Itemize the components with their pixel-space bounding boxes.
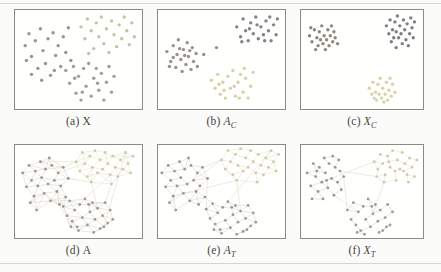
caption-subscript: C	[231, 121, 237, 130]
subfigure-b: (b)AC	[157, 9, 286, 133]
caption-prefix: (b)	[207, 115, 221, 127]
figure-row-top: (a)X (b)AC (c)XC	[14, 9, 424, 133]
caption-f: (f)XT	[348, 243, 375, 262]
subfigure-d: (d)A	[14, 144, 143, 262]
graph-svg-f	[301, 145, 423, 238]
caption-label: A	[224, 115, 231, 127]
caption-e: (e)AT	[207, 243, 235, 262]
caption-prefix: (e)	[207, 244, 220, 256]
caption-prefix: (d)	[66, 244, 80, 256]
caption-label: X	[364, 244, 371, 256]
scatter-plot-a	[14, 9, 143, 110]
caption-b: (b)AC	[207, 114, 237, 133]
graph-svg-e	[158, 145, 285, 238]
subfigure-e: (e)AT	[157, 144, 286, 262]
graph-plot-d	[14, 144, 143, 239]
caption-subscript: C	[371, 121, 377, 130]
graph-plot-e	[157, 144, 286, 239]
scatter-svg-b	[158, 10, 285, 109]
caption-prefix: (f)	[348, 244, 360, 256]
caption-label: X	[364, 115, 371, 127]
caption-prefix: (a)	[66, 115, 79, 127]
scatter-svg-a	[15, 10, 142, 109]
scatter-plot-c	[300, 9, 424, 110]
caption-a: (a)X	[66, 114, 91, 133]
caption-d: (d)A	[66, 243, 92, 262]
bottom-rule	[0, 263, 441, 264]
graph-plot-f	[300, 144, 424, 239]
scatter-plot-b	[157, 9, 286, 110]
caption-c: (c)XC	[347, 114, 376, 133]
graph-svg-d	[15, 145, 142, 238]
caption-subscript: T	[231, 250, 236, 259]
top-rule	[0, 3, 441, 4]
scatter-svg-c	[301, 10, 423, 109]
caption-label: X	[82, 115, 91, 127]
caption-label: A	[83, 244, 92, 256]
caption-subscript: T	[371, 250, 376, 259]
subfigure-f: (f)XT	[300, 144, 424, 262]
subfigure-a: (a)X	[14, 9, 143, 133]
subfigure-c: (c)XC	[300, 9, 424, 133]
figure-row-bottom: (d)A (e)AT (f)XT	[14, 144, 424, 262]
caption-prefix: (c)	[347, 115, 360, 127]
caption-label: A	[224, 244, 231, 256]
